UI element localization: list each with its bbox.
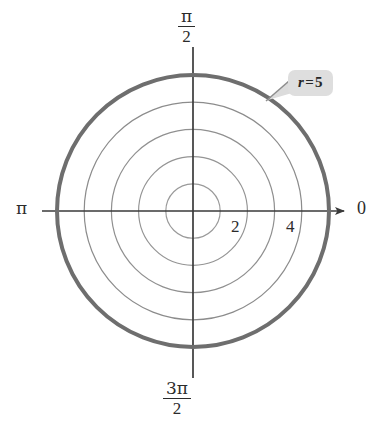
- theta-label-pi-over-2-numerator: π: [178, 8, 195, 27]
- r-tick-label-4: 4: [286, 218, 295, 235]
- polar-plot-svg: [0, 0, 382, 428]
- r-tick-label-2: 2: [231, 218, 240, 235]
- curve-annotation-callout: r=5: [288, 70, 333, 96]
- theta-label-pi-over-2-denominator: 2: [178, 27, 195, 45]
- polar-chart-figure: π 2 3π 2 π 0 2 4 r=5: [0, 0, 382, 428]
- theta-label-3pi-over-2-denominator: 2: [163, 399, 191, 417]
- callout-equals-sign: =: [304, 74, 315, 90]
- callout-value: 5: [315, 74, 323, 90]
- theta-label-3pi-over-2: 3π 2: [163, 380, 191, 417]
- theta-label-zero: 0: [357, 199, 366, 217]
- theta-label-pi-over-2: π 2: [178, 8, 195, 45]
- theta-label-3pi-over-2-numerator: 3π: [163, 380, 191, 399]
- theta-label-pi: π: [16, 200, 27, 217]
